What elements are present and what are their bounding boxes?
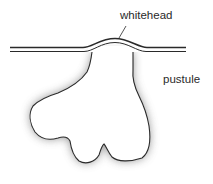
pustule-label: pustule [163,74,200,86]
pustule-diagram: whitehead pustule [0,0,213,184]
whitehead-label: whitehead [120,10,172,22]
whitehead-leader-line [119,26,126,38]
pustule-cavity [30,46,150,163]
pustule-illustration [0,0,213,184]
